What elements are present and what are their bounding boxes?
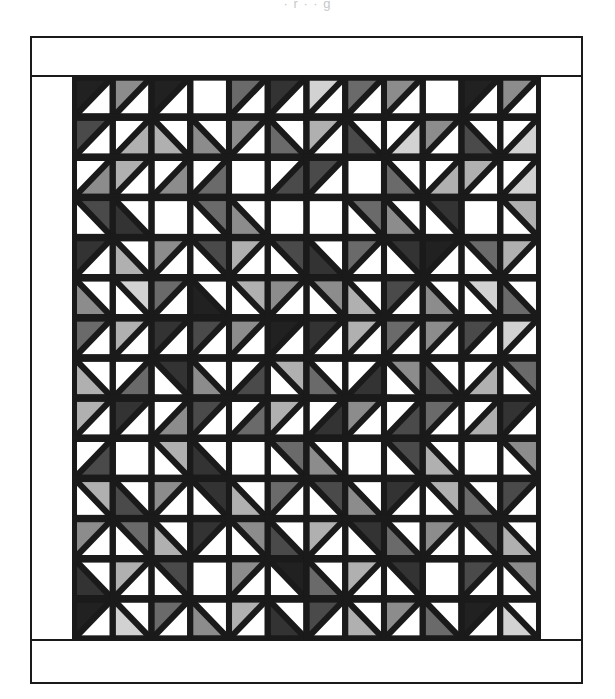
quilt-diagram-page: · r · · g [0, 0, 615, 699]
bottom-border-strip [32, 639, 581, 682]
right-border-strip [539, 77, 581, 639]
left-border-strip [32, 77, 74, 639]
page-caption: · r · · g [0, 0, 615, 12]
quilt-border [30, 36, 583, 684]
quilt-grid-svg [74, 77, 539, 639]
pieced-field [74, 77, 539, 639]
top-border-strip [32, 38, 581, 77]
